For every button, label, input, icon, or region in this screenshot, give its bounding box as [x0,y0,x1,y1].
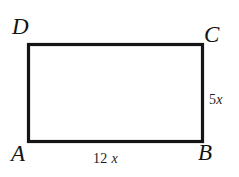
side-ab-variable: x [111,151,118,166]
side-length-label-ab: 12 x [93,152,118,166]
side-ab-number: 12 [93,151,108,166]
side-bc-variable: x [216,92,223,107]
side-length-label-bc: 5x [209,93,223,107]
vertex-label-d: D [12,15,29,38]
vertex-label-c: C [204,23,220,46]
vertex-label-b: B [198,141,212,164]
geometry-figure: D C A B 5x 12 x [0,0,239,177]
vertex-label-a: A [11,142,25,165]
